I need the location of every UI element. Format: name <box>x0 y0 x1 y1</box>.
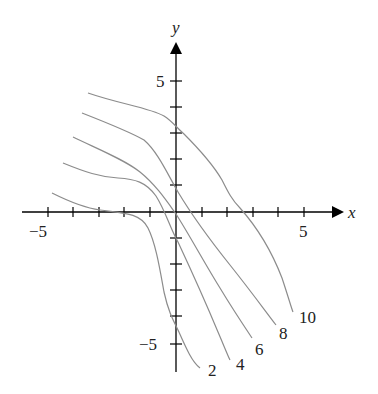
curve-label-8: 8 <box>279 324 288 343</box>
y-tick-label-neg5: −5 <box>139 335 157 354</box>
x-tick-label-neg5: −5 <box>29 222 47 241</box>
curve-10 <box>88 93 293 312</box>
curve-label-4: 4 <box>236 355 245 374</box>
y-axis-arrow-icon <box>170 42 182 54</box>
y-axis-label: y <box>170 18 180 37</box>
y-tick-label-5: 5 <box>156 72 165 91</box>
curve-label-2: 2 <box>208 361 217 380</box>
curve-6 <box>73 137 252 338</box>
curve-2 <box>52 193 200 368</box>
x-axis-label: x <box>347 203 356 222</box>
curve-label-6: 6 <box>255 340 264 359</box>
x-axis-arrow-icon <box>332 206 344 218</box>
x-tick-label-5: 5 <box>299 222 308 241</box>
curve-label-10: 10 <box>299 308 316 327</box>
level-curves-chart: y x −5 5 5 −5 2 4 6 8 10 <box>0 0 378 394</box>
curve-4 <box>63 163 230 360</box>
